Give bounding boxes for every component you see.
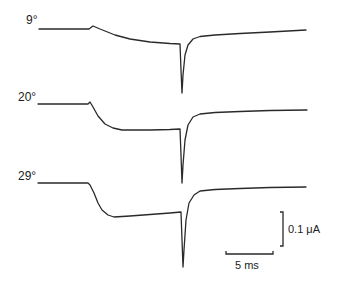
trace-9-degrees — [39, 26, 306, 93]
time-scale-bar — [226, 251, 273, 254]
temperature-current-traces-figure: 9° 20° 29° 0.1 μA 5 ms — [0, 0, 338, 285]
current-scale-bar — [280, 212, 283, 246]
trace-label-20: 20° — [18, 90, 36, 104]
current-scale-label: 0.1 μA — [288, 223, 321, 235]
trace-label-29: 29° — [18, 169, 36, 183]
time-scale-label: 5 ms — [235, 259, 259, 271]
trace-label-9: 9° — [26, 13, 38, 27]
traces-svg: 9° 20° 29° 0.1 μA 5 ms — [0, 0, 338, 285]
trace-20-degrees — [38, 102, 307, 183]
